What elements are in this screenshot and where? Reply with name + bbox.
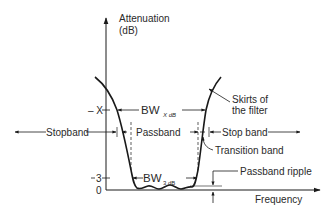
bw-x-label: BW: [141, 104, 160, 116]
filter-response-diagram: Attenuation (dB) Frequency – X 3 0 BW X …: [0, 0, 333, 217]
y-axis-label: Attenuation: [119, 13, 170, 24]
y-axis-unit-label: (dB): [119, 25, 138, 36]
skirts-label-line1: Skirts of: [232, 94, 268, 105]
stopband-right-annotation: Stop band: [190, 127, 300, 138]
passband-label: Passband: [136, 127, 180, 138]
bw-3-db-dimension: BW 3 dB: [133, 172, 197, 186]
y-tick-x: – X: [88, 105, 103, 116]
stopband-left-annotation: Stopband: [15, 127, 127, 138]
passband-ripple-label: Passband ripple: [240, 166, 312, 177]
bw-x-subscript: X dB: [162, 112, 176, 118]
bw-3-label: BW: [143, 172, 162, 184]
skirts-annotation: Skirts of the filter: [209, 89, 268, 116]
y-tick-3: 3: [96, 173, 102, 184]
bw-3-subscript: 3 dB: [163, 180, 175, 186]
transition-band-label: Transition band: [215, 145, 284, 156]
stopband-right-label: Stop band: [222, 127, 268, 138]
y-tick-0: 0: [96, 185, 102, 196]
stopband-left-label: Stopband: [46, 127, 89, 138]
transition-band-annotation: Transition band: [203, 137, 284, 156]
bw-x-db-dimension: BW X dB: [118, 104, 205, 118]
skirts-label-line2: the filter: [232, 105, 268, 116]
x-axis-label: Frequency: [255, 194, 302, 205]
